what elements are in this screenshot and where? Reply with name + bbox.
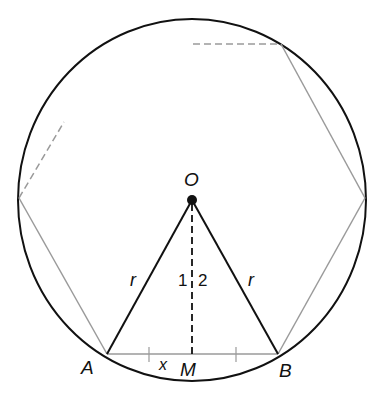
center-point: [187, 195, 197, 205]
label-r-left: r: [130, 270, 137, 290]
label-r-right: r: [248, 270, 255, 290]
inscribed-hexagon-diagram: O A B M x r r 1 2: [0, 0, 372, 393]
label-o: O: [184, 169, 199, 190]
label-x: x: [158, 356, 168, 373]
label-angle-1: 1: [178, 271, 187, 290]
label-m: M: [180, 359, 196, 380]
label-angle-2: 2: [198, 271, 207, 290]
label-a: A: [80, 357, 94, 378]
label-b: B: [279, 360, 292, 381]
dashed-hexagon-edges: [19, 44, 281, 198]
